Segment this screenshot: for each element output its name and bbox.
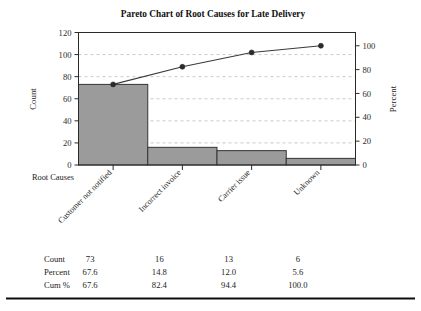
chart-title: Pareto Chart of Root Causes for Late Del… — [121, 9, 306, 19]
table-cell-r2-c1: 67.6 — [83, 267, 99, 277]
y-tick-label: 20 — [63, 138, 72, 148]
table-row-label-2: Percent — [44, 267, 70, 277]
table-cell-r1-c2: 16 — [155, 254, 164, 264]
y2-tick-label: 0 — [363, 160, 367, 170]
bar-4 — [286, 158, 355, 165]
chart-canvas: Pareto Chart of Root Causes for Late Del… — [0, 0, 421, 311]
y-axis-title-percent: Percent — [388, 85, 398, 112]
y2-tick-label: 60 — [363, 89, 372, 99]
bar-2 — [148, 147, 217, 165]
table-row-label-1: Count — [44, 254, 66, 264]
pareto-chart-figure: Pareto Chart of Root Causes for Late Del… — [0, 0, 421, 311]
bar-3 — [217, 151, 286, 165]
bar-1 — [79, 84, 148, 165]
table-row-label-3: Cum % — [44, 280, 70, 290]
table-cell-r1-c3: 13 — [224, 254, 233, 264]
y2-tick-label: 100 — [363, 41, 376, 51]
y2-tick-label: 80 — [363, 65, 372, 75]
y-tick-label: 60 — [63, 94, 72, 104]
x-axis-title-root-causes: Root Causes — [32, 173, 74, 182]
y2-tick-label: 40 — [363, 112, 372, 122]
table-cell-r2-c2: 14.8 — [152, 267, 167, 277]
y-tick-label: 0 — [67, 160, 71, 170]
y-tick-label: 100 — [59, 50, 72, 60]
y-axis-title-count: Count — [28, 88, 38, 110]
cumulative-point-1 — [111, 82, 116, 87]
table-cell-r1-c4: 6 — [296, 254, 301, 264]
y-tick-label: 80 — [63, 72, 72, 82]
cumulative-point-4 — [318, 43, 323, 48]
table-cell-r3-c2: 82.4 — [152, 280, 168, 290]
table-cell-r3-c1: 67.6 — [83, 280, 99, 290]
table-cell-r3-c3: 94.4 — [221, 280, 237, 290]
table-cell-r1-c1: 73 — [86, 254, 95, 264]
y2-tick-label: 20 — [363, 136, 372, 146]
table-cell-r2-c3: 12.0 — [221, 267, 236, 277]
cumulative-point-2 — [180, 64, 185, 69]
table-cell-r3-c4: 100.0 — [288, 280, 307, 290]
y-tick-label: 40 — [63, 116, 72, 126]
cumulative-point-3 — [249, 50, 254, 55]
table-cell-r2-c4: 5.6 — [293, 267, 304, 277]
y-tick-label: 120 — [59, 28, 72, 38]
